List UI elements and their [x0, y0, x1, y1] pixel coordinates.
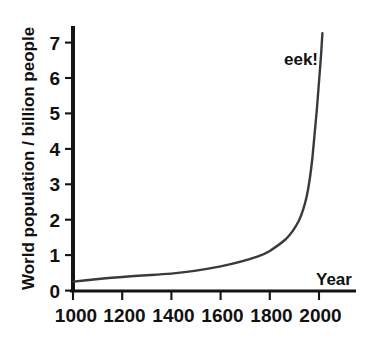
x-tick-label: 1000 — [55, 305, 97, 326]
x-axis-title: Year — [316, 270, 352, 289]
y-tick-label: 5 — [49, 103, 60, 124]
y-tick-label: 0 — [49, 281, 60, 302]
y-tick-label: 7 — [49, 33, 60, 54]
eek-annotation: eek! — [284, 50, 318, 69]
world-population-curve — [73, 33, 322, 281]
y-tick-label: 2 — [49, 210, 60, 231]
y-axis-title: World population / billion people — [19, 27, 38, 290]
y-tick-label: 3 — [49, 174, 60, 195]
x-tick-labels: 1000 1200 1400 1600 1800 2000 — [55, 305, 342, 326]
y-tick-label: 1 — [49, 245, 60, 266]
x-tick-label: 1400 — [152, 305, 194, 326]
y-tick-label: 6 — [49, 68, 60, 89]
x-tick-label: 1800 — [250, 305, 292, 326]
x-tick-label: 1600 — [201, 305, 243, 326]
chart-figure: 7 6 5 4 3 2 1 0 1000 1200 1400 1600 1800… — [0, 0, 366, 342]
y-tick-label: 4 — [49, 139, 60, 160]
y-tick-labels: 7 6 5 4 3 2 1 0 — [49, 33, 60, 302]
population-line-chart: 7 6 5 4 3 2 1 0 1000 1200 1400 1600 1800… — [0, 0, 366, 342]
x-tick-label: 1200 — [103, 305, 145, 326]
x-tick-label: 2000 — [299, 305, 341, 326]
